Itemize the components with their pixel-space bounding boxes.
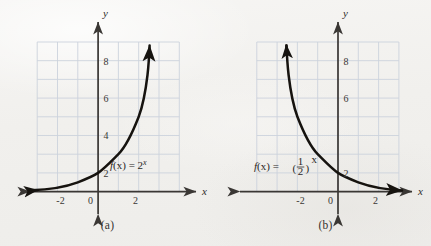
fn-denominator: 2: [298, 165, 304, 177]
x-tick-2: 2: [133, 195, 138, 206]
exponential-functions-figure: 8 6 4 2 -2 0 2 x y f(x) = 2x (a): [0, 0, 431, 246]
svg-text:f(x) = 2x: f(x) = 2x: [110, 158, 147, 172]
y-tick-6: 6: [344, 93, 349, 104]
y-tick-8: 8: [104, 56, 109, 67]
fn-open-paren: (: [293, 162, 297, 175]
curve-left-arrow: [30, 190, 38, 191]
y-axis-label: y: [342, 7, 348, 19]
y-tick-8: 8: [344, 56, 349, 67]
x-axis-label: x: [201, 185, 207, 197]
plot-b: 8 6 2 -2 0 2 x y f(x) = ( 1 2 ) x: [216, 0, 431, 246]
x-tick-0: 0: [328, 195, 333, 206]
x-tick-2: 2: [373, 195, 378, 206]
panel-a-caption: (a): [0, 219, 215, 231]
y-tick-6: 6: [104, 93, 109, 104]
y-tick-2: 2: [104, 168, 109, 179]
y-tick-2: 2: [344, 168, 349, 179]
function-label-a: f(x) = 2x: [110, 158, 147, 172]
y-tick-4: 4: [104, 130, 109, 141]
fn-exponent: x: [312, 153, 318, 165]
x-tick-0: 0: [88, 195, 93, 206]
panel-b: 8 6 2 -2 0 2 x y f(x) = ( 1 2 ) x: [216, 0, 431, 246]
x-tick-minus2: -2: [56, 195, 64, 206]
y-axis-label: y: [102, 7, 108, 19]
svg-text:f(x) =: f(x) =: [254, 160, 279, 173]
fn-equals: =: [126, 159, 138, 171]
fn-arg: (x): [113, 159, 126, 172]
x-tick-minus2: -2: [296, 195, 304, 206]
panel-a: 8 6 4 2 -2 0 2 x y f(x) = 2x (a): [0, 0, 215, 246]
curve-top-arrow: [286, 45, 287, 53]
plot-a: 8 6 4 2 -2 0 2 x y f(x) = 2x: [0, 0, 215, 246]
fn-equals: =: [270, 160, 279, 172]
fn-arg: (x): [257, 160, 270, 173]
panel-b-caption: (b): [218, 219, 431, 231]
x-axis-label: x: [417, 185, 423, 197]
fn-exponent: x: [142, 158, 147, 167]
fn-close-paren: ): [306, 162, 310, 175]
